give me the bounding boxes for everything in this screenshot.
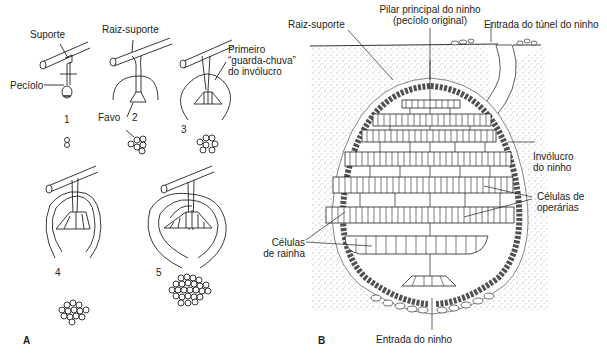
label-pilar-principal-1: Pilar principal do ninho [360, 4, 500, 15]
stage-number-1: 1 [64, 114, 70, 125]
stage-3-comb [197, 135, 218, 153]
panel-a-drawings [40, 38, 234, 325]
stage-number-4: 4 [55, 267, 61, 278]
label-primeiro-guarda-chuva-3: do invólucro [228, 66, 282, 77]
label-primeiro-guarda-chuva-2: “guarda-chuva” [228, 55, 296, 66]
label-raiz-suporte-b: Raiz-suporte [288, 19, 345, 30]
label-rainha-1: Células [265, 237, 305, 248]
label-pilar-principal-2: (pecíolo original) [360, 15, 500, 26]
label-entrada-tunel: Entrada do túnel do ninho [484, 19, 599, 30]
stage-5-comb [169, 274, 211, 306]
label-entrada-ninho: Entrada do ninho [376, 334, 452, 345]
stage-2-comb [128, 136, 146, 154]
comb-tier-3 [362, 130, 496, 142]
label-favo: Favo [98, 112, 120, 123]
nest-diagram [0, 0, 607, 355]
label-primeiro-guarda-chuva-1: Primeiro [228, 44, 265, 55]
stage-4-comb [59, 300, 89, 325]
stage-1-drawing [40, 42, 90, 148]
panel-b-drawing [306, 22, 548, 330]
comb-tier-1 [402, 100, 460, 108]
stage-2-drawing [110, 38, 172, 154]
label-involucro-1: Invólucro [533, 151, 574, 162]
panel-letter-b: B [318, 335, 325, 346]
comb-tier-7-queen [345, 236, 488, 254]
label-rainha-2: de rainha [257, 248, 305, 259]
label-raiz-suporte-a: Raiz-suporte [102, 24, 159, 35]
stage-number-2: 2 [132, 112, 138, 123]
stage-number-3: 3 [181, 124, 187, 135]
stage-5-drawing [148, 166, 226, 306]
stage-number-5: 5 [156, 267, 162, 278]
label-suporte: Suporte [30, 29, 65, 40]
label-involucro-2: do ninho [533, 162, 571, 173]
label-peciolo: Pecíolo [10, 80, 43, 91]
comb-tier-8-small [402, 276, 456, 286]
label-operarias-1: Células de [537, 191, 584, 202]
comb-tier-6 [326, 207, 514, 223]
stage-3-drawing [180, 40, 234, 153]
panel-letter-a: A [23, 335, 30, 346]
stage-4-drawing [46, 166, 101, 325]
label-operarias-2: operárias [537, 202, 579, 213]
